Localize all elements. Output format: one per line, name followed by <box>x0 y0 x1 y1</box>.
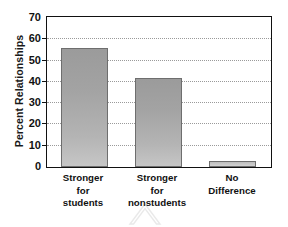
y-tick-label: 20 <box>5 117 47 129</box>
x-axis-label-line: No <box>195 172 269 185</box>
bar <box>135 78 182 167</box>
x-axis-category-labels: StrongerforstudentsStrongerfornonstudent… <box>46 172 272 214</box>
gridline <box>47 38 271 39</box>
bar <box>61 48 108 167</box>
y-tick-label: 70 <box>5 11 47 23</box>
x-axis-label-line: nonstudents <box>120 197 194 210</box>
y-tick-label: 10 <box>5 139 47 151</box>
x-axis-label-line: students <box>46 197 120 210</box>
x-axis-label-line: for <box>120 185 194 198</box>
y-tick-label: 0 <box>5 160 47 172</box>
bar-chart-figure: Percent Relationships 010203040506070 St… <box>0 0 288 227</box>
x-axis-label-line: for <box>46 185 120 198</box>
y-tick-label: 30 <box>5 96 47 108</box>
y-tick-label: 40 <box>5 75 47 87</box>
y-tick-label: 50 <box>5 54 47 66</box>
x-axis-label-line: Stronger <box>46 172 120 185</box>
x-axis-label: Strongerfornonstudents <box>120 172 194 210</box>
x-axis-label: NoDifference <box>195 172 269 197</box>
y-tick-label: 60 <box>5 32 47 44</box>
x-axis-label-line: Difference <box>195 185 269 198</box>
x-axis-label-line: Stronger <box>120 172 194 185</box>
x-axis-label: Strongerforstudents <box>46 172 120 210</box>
plot-inner: 010203040506070 <box>47 17 271 167</box>
bar <box>209 161 256 167</box>
plot-area: 010203040506070 <box>46 16 272 168</box>
